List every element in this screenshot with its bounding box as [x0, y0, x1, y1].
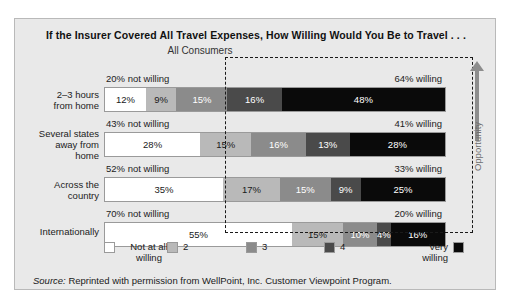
source-text: Reprinted with permission from WellPoint…: [66, 275, 392, 286]
legend-swatch: [167, 242, 178, 253]
bar-segment: 16%: [251, 133, 305, 156]
legend-item: 4: [324, 241, 360, 253]
chart-legend: Not at all willing234Very willing: [104, 241, 449, 267]
legend-item: 2: [167, 241, 203, 253]
row-label: 2–3 hours from home: [15, 89, 99, 111]
bar-segment: 15%: [280, 178, 331, 201]
willing-label: 41% willing: [324, 118, 442, 129]
bar-segment: 28%: [105, 133, 200, 156]
bar-segment: 48%: [282, 88, 445, 111]
not-willing-label: 43% not willing: [106, 118, 169, 129]
legend-item: 3: [246, 241, 282, 253]
legend-label: 3: [262, 241, 282, 252]
chart-subtitle: All Consumers: [15, 45, 385, 56]
source-prefix: Source:: [33, 275, 66, 286]
opportunity-label: Opportunity: [472, 107, 483, 187]
bar-segment: 9%: [331, 178, 361, 201]
not-willing-label: 52% not willing: [106, 163, 169, 174]
legend-label: 4: [340, 241, 360, 252]
legend-swatch: [453, 242, 464, 253]
chart-figure: If the Insurer Covered All Travel Expens…: [14, 18, 496, 290]
chart-title: If the Insurer Covered All Travel Expens…: [15, 29, 496, 41]
stacked-bar: 28%15%16%13%28%: [104, 132, 446, 157]
bar-segment: 15%: [200, 133, 251, 156]
bar-segment: 28%: [350, 133, 445, 156]
row-label: Several states away from home: [15, 128, 99, 161]
willing-label: 20% willing: [324, 208, 442, 219]
stacked-bar: 35%17%15%9%25%: [104, 177, 446, 202]
bar-segment: 9%: [146, 88, 177, 111]
row-label: Internationally: [15, 226, 99, 237]
bar-segment: 15%: [176, 88, 227, 111]
legend-swatch: [324, 242, 335, 253]
source-note: Source: Reprinted with permission from W…: [33, 275, 392, 286]
row-label: Across the country: [15, 179, 99, 201]
bar-segment: 35%: [105, 178, 223, 201]
bar-segment: 13%: [306, 133, 350, 156]
legend-swatch: [104, 242, 115, 253]
willing-label: 64% willing: [324, 73, 442, 84]
bar-segment: 16%: [227, 88, 281, 111]
legend-label: Very willing: [386, 241, 448, 263]
legend-swatch: [246, 242, 257, 253]
stacked-bar: 12%9%15%16%48%: [104, 87, 446, 112]
legend-item: Very willing: [386, 241, 464, 263]
not-willing-label: 20% not willing: [106, 73, 169, 84]
opportunity-annotation: Opportunity: [463, 61, 491, 233]
willing-label: 33% willing: [324, 163, 442, 174]
legend-label: 2: [183, 241, 203, 252]
not-willing-label: 70% not willing: [106, 208, 169, 219]
bar-segment: 17%: [223, 178, 280, 201]
bar-segment: 12%: [105, 88, 146, 111]
bar-segment: 25%: [361, 178, 445, 201]
